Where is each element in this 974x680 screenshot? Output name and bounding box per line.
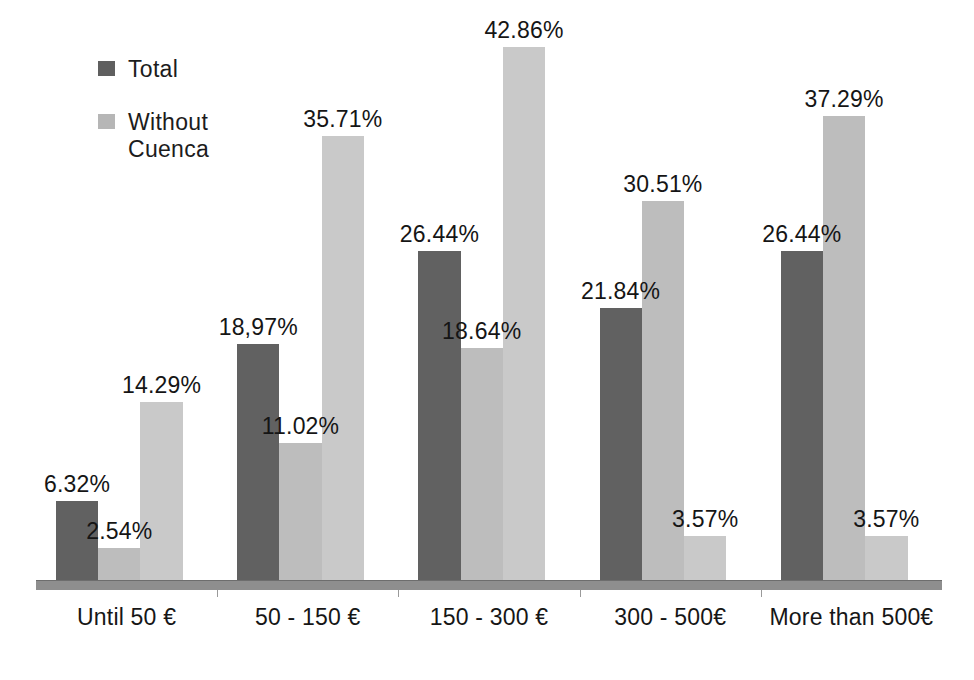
bar: 21.84% xyxy=(600,308,642,580)
bar-value-label: 30.51% xyxy=(623,171,702,198)
bar: 18.64% xyxy=(461,348,503,580)
bar-value-label: 11.02% xyxy=(262,413,340,440)
bar-value-label: 26.44% xyxy=(400,221,479,248)
bar-value-label: 3.57% xyxy=(672,506,738,533)
x-axis-tick xyxy=(761,590,762,597)
bar: 42.86% xyxy=(503,47,545,580)
bar-value-label: 3.57% xyxy=(853,506,919,533)
bar: 35.71% xyxy=(322,136,364,580)
bar-value-label: 42.86% xyxy=(484,17,563,44)
x-axis-line xyxy=(36,580,942,590)
bar-value-label: 26.44% xyxy=(762,221,841,248)
x-axis-tick xyxy=(398,590,399,597)
bar: 11.02% xyxy=(279,443,321,580)
bar-group: 26.44%37.29%3.57% xyxy=(781,8,908,580)
bar-group: 26.44%18.64%42.86% xyxy=(418,8,545,580)
x-axis-label-3: 300 - 500€ xyxy=(580,604,761,644)
x-axis-category-labels: Until 50 €50 - 150 €150 - 300 €300 - 500… xyxy=(36,604,942,644)
bar: 2.54% xyxy=(98,548,140,580)
bar: 3.57% xyxy=(865,536,907,580)
bar-value-label: 18,97% xyxy=(219,314,298,341)
x-axis-label-1: 50 - 150 € xyxy=(217,604,398,644)
bar-group: 21.84%30.51%3.57% xyxy=(600,8,727,580)
bar-value-label: 14.29% xyxy=(122,372,201,399)
bar-chart: Total Without Cuenca 6.32%2.54%14.29%18,… xyxy=(0,0,974,680)
bar-value-label: 37.29% xyxy=(805,86,884,113)
bar-value-label: 21.84% xyxy=(581,278,660,305)
x-axis-label-2: 150 - 300 € xyxy=(398,604,579,644)
x-axis-tick xyxy=(217,590,218,597)
bar: 26.44% xyxy=(418,251,460,580)
plot-area: 6.32%2.54%14.29%18,97%11.02%35.71%26.44%… xyxy=(36,8,942,580)
bar: 14.29% xyxy=(140,402,182,580)
bar-value-label: 2.54% xyxy=(86,518,152,545)
bar-value-label: 35.71% xyxy=(303,106,382,133)
x-axis-label-4: More than 500€ xyxy=(761,604,942,644)
bar: 26.44% xyxy=(781,251,823,580)
bar-value-label: 18.64% xyxy=(442,318,521,345)
x-axis-label-0: Until 50 € xyxy=(36,604,217,644)
bar-group: 6.32%2.54%14.29% xyxy=(56,8,183,580)
x-axis-tick xyxy=(580,590,581,597)
bar-group: 18,97%11.02%35.71% xyxy=(237,8,364,580)
bar: 18,97% xyxy=(237,344,279,580)
bar-value-label: 6.32% xyxy=(44,471,110,498)
bar: 3.57% xyxy=(684,536,726,580)
